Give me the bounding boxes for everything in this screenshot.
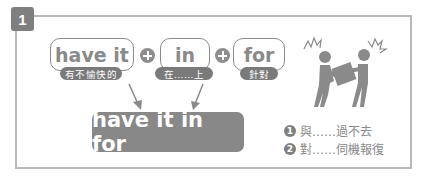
plus-circle-icon xyxy=(140,48,155,63)
meaning-text: 與……過不去 xyxy=(300,122,372,139)
number-circle-icon: 2 xyxy=(284,143,296,155)
word-meaning-pill: 針對 xyxy=(240,67,278,80)
number-circle-icon: 1 xyxy=(284,125,296,137)
meaning-item: 2 對……伺機報復 xyxy=(284,140,384,157)
meaning-item: 1 與……過不去 xyxy=(284,122,372,139)
result-phrase: have it in for xyxy=(92,112,244,152)
plus-circle-icon xyxy=(215,48,230,63)
two-people-arguing-illustration xyxy=(300,35,390,115)
meaning-text: 對……伺機報復 xyxy=(300,140,384,157)
section-number-badge: 1 xyxy=(11,7,34,31)
word-meaning-pill: 有不愉快的 xyxy=(60,67,122,80)
word-meaning-pill: 在……上 xyxy=(155,67,213,80)
